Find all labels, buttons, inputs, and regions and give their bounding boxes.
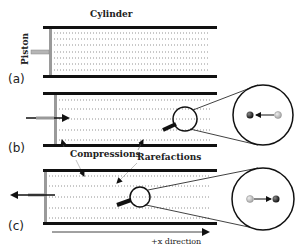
cylinder-bottom-wall <box>43 75 217 78</box>
piston-rod <box>31 50 49 54</box>
compressions-label: Compressions <box>70 149 141 159</box>
panel-b-label: (b) <box>8 141 25 155</box>
panel-a: Cylinder Piston (a) <box>8 9 217 86</box>
compression-pointer-icon <box>76 160 84 176</box>
direction-label: +x direction <box>151 237 201 246</box>
particle-displaced <box>247 112 254 119</box>
particle-displaced <box>273 196 280 203</box>
sound-wave-cylinder-diagram: Cylinder Piston (a) <box>0 0 304 247</box>
piston-label: Piston <box>20 33 30 65</box>
air-particles-uniform <box>54 33 210 70</box>
cylinder-bottom-wall <box>43 222 217 225</box>
rarefactions-label: Rarefactions <box>137 152 201 162</box>
cylinder-bottom-wall <box>43 144 217 147</box>
particle-original <box>247 196 254 203</box>
piston-head <box>49 29 52 75</box>
piston-head <box>44 172 47 222</box>
cylinder-top-wall <box>43 92 217 95</box>
zoom-circle-rarefaction <box>232 168 294 230</box>
air-particles-compressed <box>59 100 210 140</box>
rarefaction-pointer-icon <box>117 163 137 183</box>
zoom-circle-compression <box>233 85 293 145</box>
cylinder-label: Cylinder <box>90 9 133 19</box>
piston-rod <box>36 117 54 120</box>
panel-c-label: (c) <box>8 219 24 233</box>
cylinder-top-wall <box>43 26 217 29</box>
piston-head <box>54 95 57 144</box>
cylinder-top-wall <box>43 169 217 172</box>
panel-b: (b) Compressions Rarefactions <box>8 85 293 162</box>
particle-original <box>275 112 282 119</box>
panel-c: (c) +x direction <box>8 168 294 246</box>
panel-a-label: (a) <box>8 72 25 86</box>
